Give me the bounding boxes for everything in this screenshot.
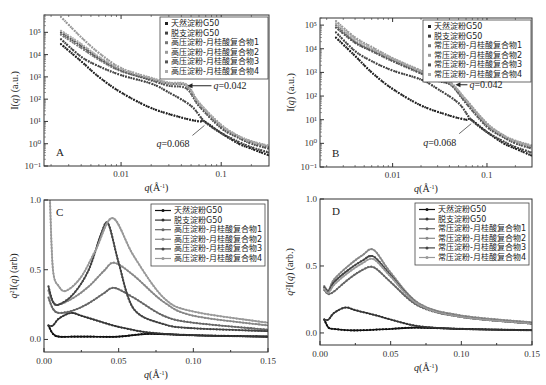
x-tick-label: 0.01 <box>385 170 401 180</box>
y-tick-label: 10¹ <box>305 115 317 125</box>
legend-entry: 高压淀粉-月桂酸复合物4 <box>171 66 259 76</box>
legend-entry: 天然淀粉G50 <box>174 205 222 215</box>
panel-C: 0.00.51.00.000.050.100.15q(Å-1)q2I(q) (a… <box>8 195 276 381</box>
x-axis-label: q(Å-1) <box>145 182 169 194</box>
legend-entry: 脱支淀粉G50 <box>174 215 222 225</box>
x-tick-label: 0.10 <box>453 349 469 359</box>
y-tick-label: 10⁻¹ <box>25 161 42 171</box>
legend-entry: 天然淀粉G50 <box>434 21 482 31</box>
x-tick-label: 0.05 <box>111 356 127 366</box>
panel-letter: C <box>56 206 63 218</box>
legend: 天然淀粉G50脱支淀粉G50高压淀粉-月桂酸复合物1高压淀粉-月桂酸复合物2高压… <box>160 17 268 79</box>
legend-entry: 天然淀粉G50 <box>438 204 486 214</box>
x-tick-label: 0.10 <box>185 356 201 366</box>
series-line <box>324 259 532 324</box>
y-tick-label: 0.0 <box>306 328 318 338</box>
legend-entry: 高压淀粉-月桂酸复合物3 <box>171 56 259 66</box>
legend-entry: 高压淀粉-月桂酸复合物2 <box>171 47 259 57</box>
x-tick-label: 0.05 <box>383 349 399 359</box>
figure-canvas: 10⁻¹10⁰10¹10²10³10⁴10⁵0.010.1q(Å-1)I(q) … <box>0 0 546 385</box>
x-tick-label: 0.1 <box>216 169 227 179</box>
y-axis-label: I(q) (a.u.) <box>285 73 297 112</box>
y-tick-label: 1.0 <box>306 194 318 204</box>
y-tick-label: 10⁻¹ <box>301 162 318 172</box>
x-tick-label: 0.1 <box>481 170 492 180</box>
legend-entry: 高压淀粉-月桂酸复合物2 <box>174 234 262 244</box>
x-tick-label: 0.15 <box>260 356 276 366</box>
y-tick-label: 10² <box>305 91 317 101</box>
legend-entry: 常压淀粉-月桂酸复合物1 <box>438 223 526 233</box>
legend-entry: 常压淀粉-月桂酸复合物2 <box>438 233 526 243</box>
legend-entry: 天然淀粉G50 <box>171 18 219 28</box>
legend-entry: 常压淀粉-月桂酸复合物2 <box>434 50 522 60</box>
y-tick-label: 0.0 <box>30 334 42 344</box>
legend-entry: 高压淀粉-月桂酸复合物1 <box>174 224 262 234</box>
x-axis-label: q(Å-1) <box>414 183 438 195</box>
legend: 天然淀粉G50脱支淀粉G50高压淀粉-月桂酸复合物1高压淀粉-月桂酸复合物2高压… <box>151 204 265 266</box>
panel-B: 10⁻¹10⁰10¹10²10³10⁴10⁵0.010.1q(Å-1)I(q) … <box>285 18 532 195</box>
annotation-q0068: q=0.068 <box>156 138 189 149</box>
legend: 天然淀粉G50脱支淀粉G50常压淀粉-月桂酸复合物1常压淀粉-月桂酸复合物2常压… <box>423 20 531 82</box>
y-tick-label: 10⁰ <box>28 139 41 149</box>
y-tick-label: 10⁴ <box>29 50 41 60</box>
legend-entry: 高压淀粉-月桂酸复合物4 <box>174 253 262 263</box>
legend-entry: 常压淀粉-月桂酸复合物4 <box>438 252 526 262</box>
legend-entry: 常压淀粉-月桂酸复合物4 <box>434 69 522 79</box>
x-tick-label: 0.00 <box>36 356 52 366</box>
y-axis-label: I(q) (a.u.) <box>9 71 21 110</box>
y-tick-label: 1.0 <box>30 195 42 205</box>
legend-entry: 常压淀粉-月桂酸复合物1 <box>434 40 522 50</box>
y-tick-label: 10⁵ <box>29 27 41 37</box>
y-tick-label: 0.5 <box>30 265 42 275</box>
legend-entry: 脱支淀粉G50 <box>438 214 486 224</box>
legend-entry: 常压淀粉-月桂酸复合物3 <box>438 242 526 252</box>
legend-entry: 高压淀粉-月桂酸复合物3 <box>174 243 262 253</box>
x-tick-label: 0.15 <box>524 349 540 359</box>
legend-entry: 高压淀粉-月桂酸复合物1 <box>171 37 259 47</box>
y-tick-label: 10⁵ <box>305 20 317 30</box>
annotation-q0042: q=0.042 <box>213 80 246 91</box>
panel-letter: B <box>332 147 339 159</box>
y-tick-label: 10¹ <box>29 116 41 126</box>
annotation-q0068: q=0.068 <box>423 137 456 148</box>
y-tick-label: 10⁴ <box>305 44 317 54</box>
panel-A: 10⁻¹10⁰10¹10²10³10⁴10⁵0.010.1q(Å-1)I(q) … <box>9 15 270 194</box>
y-tick-label: 10³ <box>305 67 317 77</box>
x-axis-label: q(Å-1) <box>144 369 168 381</box>
y-axis-label: q2I(q) (arb) <box>8 254 20 299</box>
legend: 天然淀粉G50脱支淀粉G50常压淀粉-月桂酸复合物1常压淀粉-月桂酸复合物2常压… <box>415 203 529 265</box>
panel-letter: D <box>332 205 340 217</box>
x-tick-label: 0.00 <box>312 349 328 359</box>
panel-letter: A <box>56 146 64 158</box>
series-line <box>324 267 532 324</box>
x-axis-label: q(Å-1) <box>414 362 438 374</box>
y-tick-label: 10³ <box>29 72 41 82</box>
legend-entry: 脱支淀粉G50 <box>171 28 219 38</box>
series-line <box>324 256 532 324</box>
y-tick-label: 0.5 <box>306 261 318 271</box>
annotation-q0042: q=0.042 <box>469 79 502 90</box>
y-tick-label: 10⁰ <box>304 138 317 148</box>
y-tick-label: 10² <box>29 94 41 104</box>
legend-entry: 脱支淀粉G50 <box>434 31 482 41</box>
panel-D: 0.00.51.00.000.050.100.15q(Å-1)q2I(q) (a… <box>284 194 540 374</box>
y-axis-label: q2I(q) (arb.) <box>284 248 296 295</box>
x-tick-label: 0.01 <box>113 169 129 179</box>
legend-entry: 常压淀粉-月桂酸复合物3 <box>434 59 522 69</box>
series-line <box>48 288 268 330</box>
